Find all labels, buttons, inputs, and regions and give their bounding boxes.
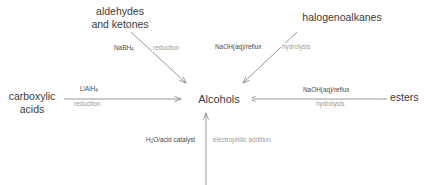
annotation-reagent-nabh4: NaBH4: [113, 44, 135, 53]
annotation-reagent-naoh-esters: NaOH(aq)/reflux: [302, 86, 351, 94]
reagent-text: LiAlH: [80, 85, 95, 92]
annotation-type-reduction-carboxylic: reduction: [73, 100, 101, 108]
node-esters: esters: [390, 91, 428, 104]
annotation-type-electrophilic-addition: electrophilic addition: [212, 136, 272, 144]
node-alcohols: Alcohols: [186, 91, 252, 108]
annotation-reagent-water-acid-catalyst: H2O/acid catalyst: [145, 136, 196, 145]
annotation-reagent-naoh-halogenoalkanes: NaOH(aq)/reflux: [214, 43, 263, 51]
reagent-suffix: O/acid catalyst: [153, 136, 195, 143]
reagent-subscript: 2: [151, 139, 154, 144]
reagent-subscript: 4: [131, 47, 134, 52]
reagent-prefix: H: [146, 136, 151, 143]
node-aldehydes-and-ketones: aldehydes and ketones: [72, 5, 168, 30]
node-halogenoalkanes: halogenoalkanes: [283, 11, 401, 24]
arrow-halogenoalkanes-to-alcohols: [243, 32, 297, 83]
annotation-type-hydrolysis-halogenoalkanes: hydrolysis: [281, 43, 311, 51]
node-carboxylic-acids: carboxylic acids: [3, 90, 61, 115]
annotation-type-hydrolysis-esters: hydrolysis: [315, 100, 345, 108]
reagent-subscript: 4: [95, 88, 98, 93]
alcohol-synthesis-diagram: aldehydes and ketones halogenoalkanes ca…: [0, 0, 429, 185]
reagent-text: NaBH: [114, 44, 131, 51]
arrow-aldehydes-to-alcohols: [131, 32, 186, 83]
annotation-type-reduction-aldehydes: reduction: [152, 44, 180, 52]
annotation-reagent-lialh4: LiAlH4: [79, 85, 99, 94]
